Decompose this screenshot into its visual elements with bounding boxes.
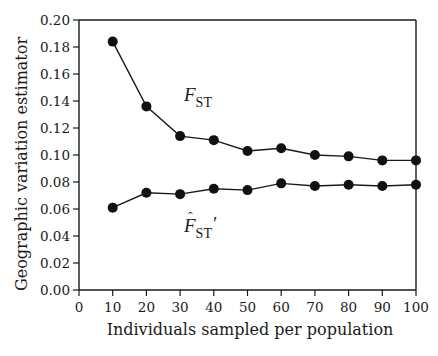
data-point-marker: [411, 180, 421, 190]
y-tick-label: 0.08: [40, 174, 70, 190]
data-point-marker: [175, 189, 185, 199]
data-point-marker: [411, 155, 421, 165]
data-point-marker: [175, 131, 185, 141]
data-point-marker: [276, 178, 286, 188]
line-chart: 0.000.020.040.060.080.100.120.140.160.18…: [0, 0, 438, 356]
x-axis-title: Individuals sampled per population: [107, 320, 394, 339]
data-point-marker: [141, 188, 151, 198]
series-line-0: [113, 42, 416, 161]
data-point-marker: [108, 203, 118, 213]
data-point-marker: [377, 155, 387, 165]
x-tick-label: 70: [306, 299, 323, 315]
series-layer: [108, 37, 421, 213]
y-tick-label: 0.18: [40, 39, 70, 55]
x-tick-label: 40: [205, 299, 222, 315]
x-axis-ticks: 0102030405060708090100: [75, 290, 429, 315]
data-point-marker: [377, 181, 387, 191]
x-tick-label: 80: [340, 299, 357, 315]
svg-text:FST′: FST′: [183, 213, 217, 241]
y-tick-label: 0.00: [40, 282, 70, 298]
data-point-marker: [344, 151, 354, 161]
x-tick-label: 30: [172, 299, 189, 315]
data-point-marker: [310, 150, 320, 160]
x-tick-label: 90: [374, 299, 391, 315]
y-tick-label: 0.12: [40, 120, 70, 136]
y-axis-title: Geographic variation estimator: [12, 37, 31, 291]
y-tick-label: 0.02: [40, 255, 70, 271]
x-tick-label: 20: [138, 299, 155, 315]
y-tick-label: 0.20: [40, 12, 70, 28]
data-point-marker: [276, 143, 286, 153]
data-point-marker: [209, 184, 219, 194]
series-line-1: [113, 183, 416, 207]
x-tick-label: 0: [75, 299, 84, 315]
y-axis-ticks: 0.000.020.040.060.080.100.120.140.160.18…: [40, 12, 79, 298]
x-tick-label: 100: [403, 299, 429, 315]
data-point-marker: [141, 101, 151, 111]
data-point-marker: [243, 146, 253, 156]
y-tick-label: 0.16: [40, 66, 70, 82]
data-point-marker: [209, 135, 219, 145]
y-tick-label: 0.14: [40, 93, 70, 109]
x-tick-label: 10: [104, 299, 121, 315]
data-point-marker: [310, 181, 320, 191]
data-point-marker: [344, 180, 354, 190]
y-tick-label: 0.06: [40, 201, 70, 217]
x-tick-label: 50: [239, 299, 256, 315]
data-point-marker: [108, 37, 118, 47]
data-point-marker: [243, 185, 253, 195]
series-label-fst: FST: [183, 84, 212, 110]
y-tick-label: 0.10: [40, 147, 70, 163]
x-tick-label: 60: [273, 299, 290, 315]
series-label-fst-hat-prime: ˆ FST′: [183, 210, 217, 241]
y-tick-label: 0.04: [40, 228, 70, 244]
